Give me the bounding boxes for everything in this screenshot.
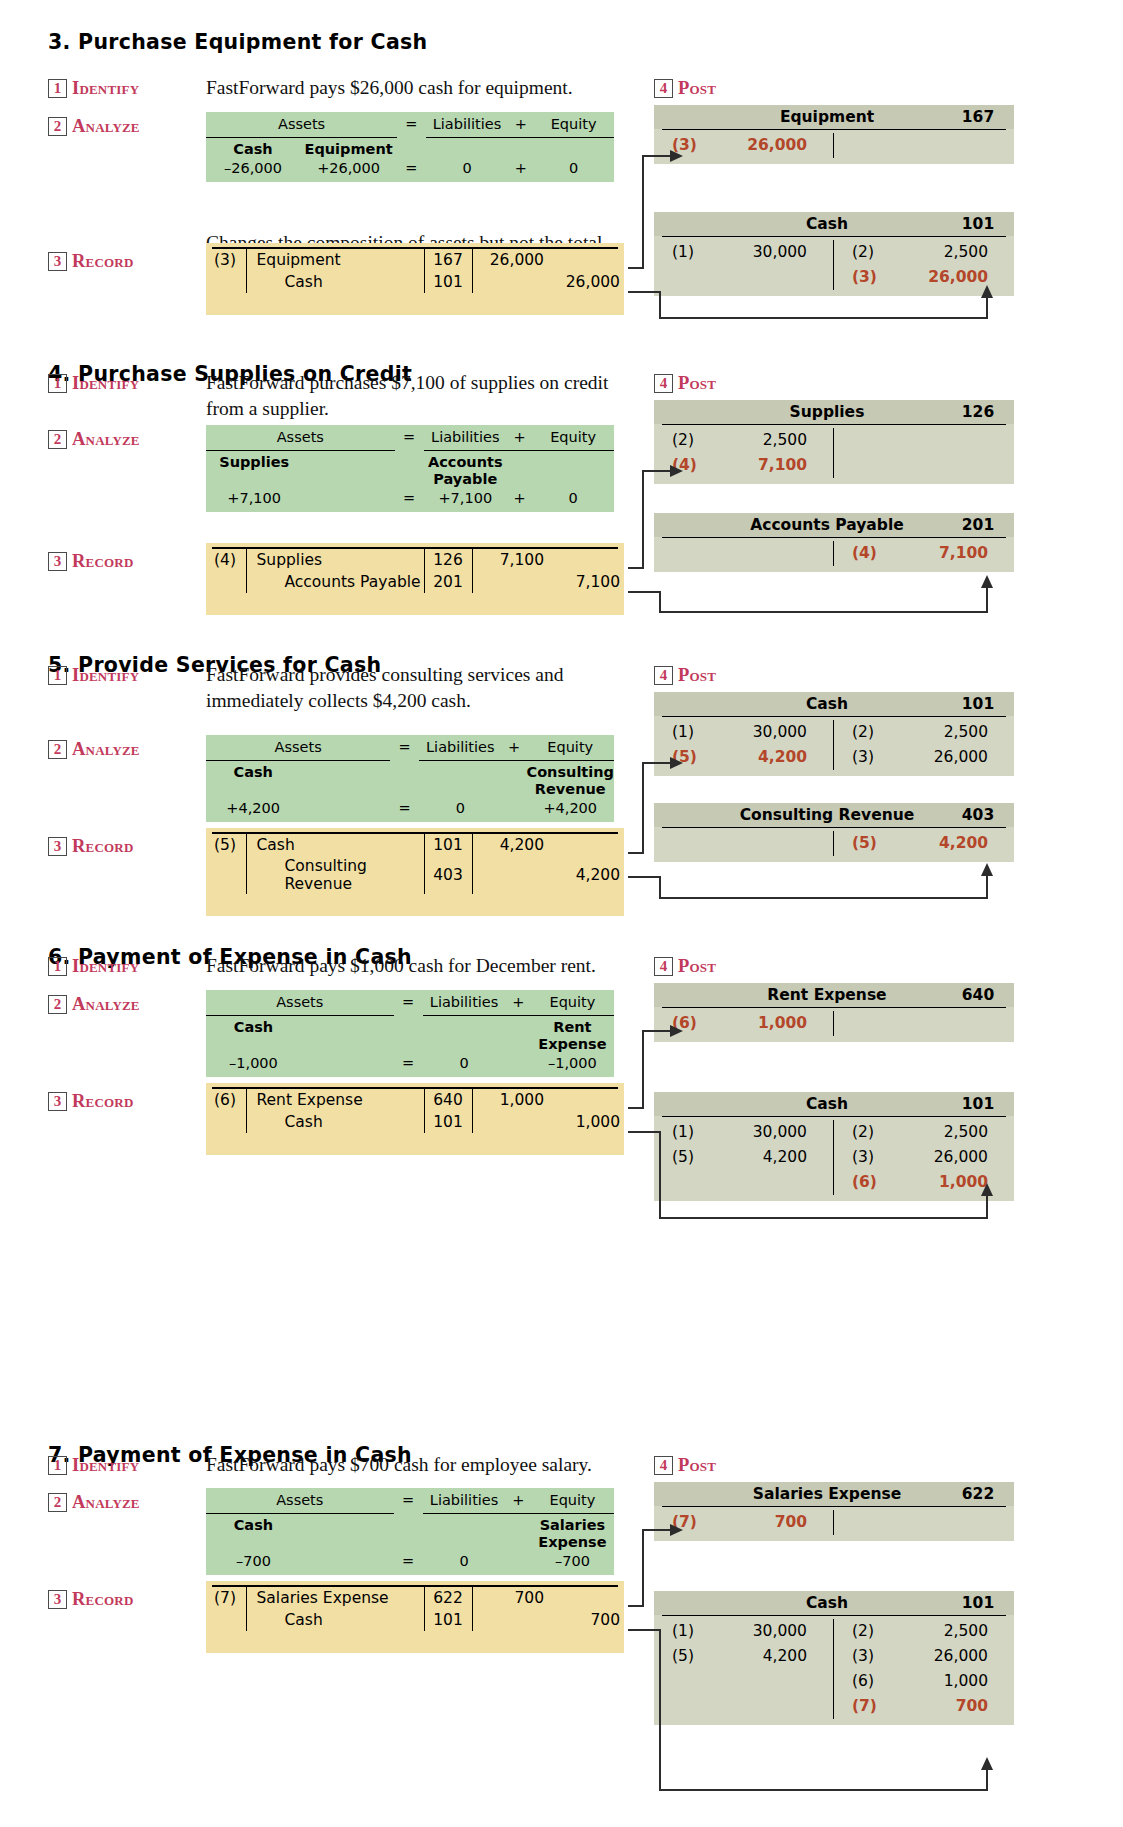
entry-account-name: Cash — [246, 1609, 424, 1631]
ledger-row: (6)1,000 — [654, 1011, 833, 1036]
step-label-record: Record — [72, 836, 134, 857]
step-number-badge: 2 — [48, 995, 67, 1014]
journal-entry-table: (3)Equipment16726,000Cash10126,000 — [206, 249, 624, 315]
t-account-title: Supplies — [654, 403, 942, 421]
asset-account-2 — [301, 1513, 394, 1534]
entry-account-number: 101 — [424, 271, 472, 293]
t-account-header: Accounts Payable201 — [654, 513, 1014, 537]
t-account-header: Equipment167 — [654, 105, 1014, 129]
debit-side — [654, 541, 834, 566]
plus-sign: + — [506, 1488, 531, 1510]
ledger-amount: 2,500 — [712, 428, 833, 453]
credit-side: (2)2,500(3)26,000(6)1,000 — [834, 1120, 1014, 1195]
step-post: 4Post — [654, 956, 1014, 977]
entry-debit: 700 — [472, 1587, 548, 1609]
ledger-row: (2)2,500 — [834, 1619, 1014, 1644]
ledger-row: (2)2,500 — [654, 428, 833, 453]
step-number-badge: 4 — [654, 666, 673, 685]
debit-side: (2)2,500(4)7,100 — [654, 428, 834, 478]
identify-description: FastForward purchases $7,100 of supplies… — [206, 370, 646, 422]
entry-account-name: Supplies — [246, 549, 424, 571]
debit-side: (1)30,000(5)4,200 — [654, 1120, 834, 1195]
ledger-ref: (7) — [834, 1694, 892, 1719]
t-account-body: (4)7,100 — [654, 538, 1014, 572]
liability-account-line2 — [423, 1036, 506, 1053]
step-number-badge: 1 — [48, 666, 67, 685]
ledger-amount: 26,000 — [892, 265, 1014, 290]
entry-debit — [472, 271, 548, 293]
credit-side: (2)2,500(3)26,000 — [834, 720, 1014, 770]
entry-ref: (3) — [206, 249, 246, 271]
ledger-ref: (6) — [654, 1011, 712, 1036]
t-account-accounts-payable: Accounts Payable201 (4)7,100 — [654, 513, 1014, 572]
post-column: 4Post — [654, 1455, 1014, 1480]
equity-account — [533, 137, 614, 158]
ledger-row: (1)30,000 — [654, 720, 833, 745]
asset-account-2: Equipment — [300, 137, 397, 158]
equity-account-line2 — [532, 471, 614, 488]
t-account-cash: Cash101(1)30,000(5)4,200(2)2,500(3)26,00… — [654, 692, 1014, 776]
equity-account: Consulting — [527, 760, 615, 781]
ledger-amount: 4,200 — [712, 1145, 833, 1170]
entry-ref: (5) — [206, 834, 246, 856]
asset-value-2 — [301, 1551, 394, 1575]
t-account-header: Cash101 — [654, 1092, 1014, 1116]
plus-sign: + — [507, 425, 532, 447]
asset-account-1: Supplies — [206, 450, 302, 471]
t-account-title: Cash — [654, 1594, 942, 1612]
ledger-ref: (3) — [834, 265, 892, 290]
t-account-header: Salaries Expense622 — [654, 1482, 1014, 1506]
entry-ref: (4) — [206, 549, 246, 571]
ledger-row: (3)26,000 — [834, 265, 1014, 290]
t-account-body: (6)1,000 — [654, 1008, 1014, 1042]
step-identify: 1Identify — [48, 373, 139, 394]
col-header-assets: Assets — [206, 1488, 394, 1510]
ledger-amount: 700 — [892, 1694, 1014, 1719]
ledger-account-second: Consulting Revenue403 (5)4,200 — [654, 803, 1014, 862]
ledger-row: (5)4,200 — [834, 831, 1014, 856]
entry-ref — [206, 1111, 246, 1133]
t-account-consulting-revenue: Consulting Revenue403 (5)4,200 — [654, 803, 1014, 862]
col-header-assets: Assets — [206, 990, 394, 1012]
ledger-ref: (2) — [834, 240, 892, 265]
col-header-assets: Assets — [206, 112, 397, 134]
analyze-block: Assets=Liabilities+EquityCashConsultingR… — [206, 735, 614, 822]
ledger-row: (1)30,000 — [654, 240, 833, 265]
step-number-badge: 2 — [48, 1493, 67, 1512]
liability-value: 0 — [423, 1551, 506, 1575]
transaction-analysis-page: 3. Purchase Equipment for Cash1IdentifyF… — [0, 0, 1123, 1827]
plus-sign: + — [508, 112, 533, 134]
t-account-title: Consulting Revenue — [654, 806, 942, 824]
step-identify: 1Identify — [48, 665, 139, 686]
debit-side: (6)1,000 — [654, 1011, 834, 1036]
ledger-row: (1)30,000 — [654, 1619, 833, 1644]
ledger-ref: (1) — [654, 240, 712, 265]
step-number-badge: 1 — [48, 1456, 67, 1475]
step-label-analyze: Analyze — [72, 1492, 140, 1513]
asset-value-2: +26,000 — [300, 158, 397, 182]
step-number-badge: 4 — [654, 374, 673, 393]
analyze-block: Assets=Liabilities+EquitySuppliesAccount… — [206, 425, 614, 512]
asset-value-1: –700 — [206, 1551, 301, 1575]
t-account-number: 403 — [942, 806, 1014, 824]
entry-debit — [472, 856, 548, 894]
col-header-equity: Equity — [533, 112, 614, 134]
t-account-header: Rent Expense640 — [654, 983, 1014, 1007]
entry-credit: 4,200 — [548, 856, 624, 894]
step-analyze: 2Analyze — [48, 1492, 140, 1513]
credit-side — [834, 133, 1014, 158]
t-account-title: Cash — [654, 215, 942, 233]
asset-account-1: Cash — [206, 137, 300, 158]
col-header-liabilities: Liabilities — [426, 112, 509, 134]
liability-value: 0 — [419, 798, 502, 822]
ledger-amount: 1,000 — [712, 1011, 833, 1036]
identify-description: FastForward provides consulting services… — [206, 662, 646, 714]
ledger-amount: 7,100 — [892, 541, 1014, 566]
journal-entry-table: (6)Rent Expense6401,000Cash1011,000 — [206, 1089, 624, 1155]
record-journal-block: (6)Rent Expense6401,000Cash1011,000 — [206, 1083, 624, 1155]
asset-value-2 — [300, 798, 390, 822]
col-header-liabilities: Liabilities — [419, 735, 502, 757]
credit-side: (2)2,500(3)26,000(6)1,000(7)700 — [834, 1619, 1014, 1719]
col-header-equity: Equity — [531, 990, 614, 1012]
ledger-ref: (1) — [654, 1120, 712, 1145]
